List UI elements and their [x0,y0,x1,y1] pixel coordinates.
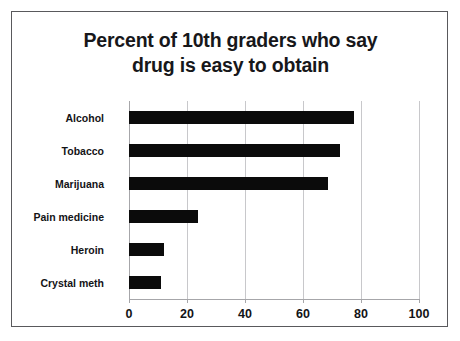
bar-marijuana [129,177,328,190]
bar-row-heroin: Heroin [129,233,429,266]
tick-mark-60 [303,299,304,303]
bar-pain-medicine [129,210,198,223]
x-tick-label-40: 40 [225,307,265,321]
bar-row-alcohol: Alcohol [129,101,429,134]
x-tick-label-0: 0 [109,307,149,321]
bar-row-tobacco: Tobacco [129,134,429,167]
category-label-crystal-meth: Crystal meth [0,277,104,290]
chart-title: Percent of 10th graders who say drug is … [12,28,449,78]
bar-tobacco [129,144,340,157]
category-label-alcohol: Alcohol [0,112,104,125]
bar-row-pain-medicine: Pain medicine [129,200,429,233]
bar-crystal-meth [129,276,161,289]
tick-mark-100 [419,299,420,303]
x-tick-label-20: 20 [167,307,207,321]
tick-mark-0 [129,299,130,303]
x-axis-line [129,299,419,300]
bar-alcohol [129,111,354,124]
bar-row-marijuana: Marijuana [129,167,429,200]
x-tick-label-60: 60 [283,307,323,321]
category-label-heroin: Heroin [0,244,104,257]
chart-title-line-1: Percent of 10th graders who say [12,28,449,53]
tick-mark-80 [361,299,362,303]
tick-mark-40 [245,299,246,303]
category-label-marijuana: Marijuana [0,178,104,191]
x-tick-label-80: 80 [341,307,381,321]
bar-row-crystal-meth: Crystal meth [129,266,429,299]
plot-area: Alcohol Tobacco Marijuana Pain medicine … [129,101,429,299]
bar-heroin [129,243,164,256]
chart-title-line-2: drug is easy to obtain [12,53,449,78]
chart-figure-frame: Percent of 10th graders who say drug is … [11,11,448,327]
x-tick-label-100: 100 [399,307,439,321]
tick-mark-20 [187,299,188,303]
category-label-tobacco: Tobacco [0,145,104,158]
category-label-pain-medicine: Pain medicine [0,211,104,224]
